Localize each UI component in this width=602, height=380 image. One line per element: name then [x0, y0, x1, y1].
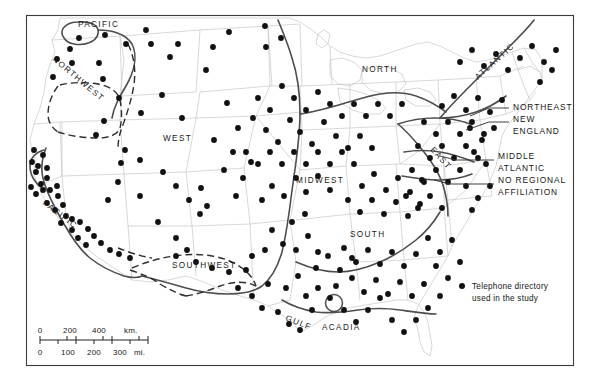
- side-label-middle-atlantic: ATLANTIC: [498, 163, 545, 173]
- sample-dot: [315, 89, 321, 95]
- sample-dot: [427, 155, 433, 161]
- sample-dot: [387, 113, 393, 119]
- sample-dot: [341, 245, 347, 251]
- sample-dot: [184, 247, 190, 253]
- sample-dot: [309, 307, 315, 313]
- sample-dot: [345, 197, 351, 203]
- legend-line-2: used in the study: [472, 294, 539, 303]
- sample-dot: [457, 259, 463, 265]
- region-label-acadia: ACADIA: [322, 323, 361, 332]
- sample-dot: [179, 115, 185, 121]
- region-label-west: WEST: [163, 134, 192, 143]
- sample-dot: [278, 35, 284, 41]
- sample-dot: [475, 95, 481, 101]
- sample-dot: [327, 101, 333, 107]
- sample-dot: [421, 119, 427, 125]
- sample-dot: [291, 95, 297, 101]
- sample-dot: [439, 143, 445, 149]
- sample-dot: [413, 317, 419, 323]
- sample-dot: [240, 175, 246, 181]
- sample-dot: [475, 195, 481, 201]
- sample-dot: [118, 160, 124, 166]
- sample-dot: [302, 211, 308, 217]
- sample-dot: [363, 113, 369, 119]
- sample-dot: [351, 101, 357, 107]
- sample-dot: [275, 139, 281, 145]
- side-label-no-regional-affiliation: NO REGIONAL: [498, 175, 566, 185]
- sample-dot: [107, 247, 113, 253]
- sample-dot: [101, 118, 107, 124]
- scale-km-unit: km.: [124, 326, 138, 335]
- sample-dot: [33, 169, 39, 175]
- sample-dot: [439, 103, 445, 109]
- sample-dot: [269, 227, 275, 233]
- sample-dot: [529, 43, 535, 49]
- scale-km-label-2: 400: [92, 326, 106, 335]
- region-label-north: NORTH: [362, 65, 398, 74]
- sample-dot: [415, 205, 421, 211]
- sample-dot: [469, 47, 475, 53]
- scale-mi-label-1: 100: [61, 348, 75, 357]
- sample-dot: [421, 281, 427, 287]
- legend-dot-symbol: [459, 283, 465, 289]
- sample-dot: [160, 169, 166, 175]
- sample-dot: [469, 207, 475, 213]
- sample-dot: [425, 235, 431, 241]
- sample-dot: [259, 197, 265, 203]
- sample-dot: [211, 137, 217, 143]
- sample-dot: [249, 293, 255, 299]
- sample-dot: [369, 145, 375, 151]
- sample-dot: [67, 46, 73, 52]
- sample-dot: [333, 133, 339, 139]
- sample-dot: [309, 141, 315, 147]
- sample-dot: [365, 247, 371, 253]
- sample-dot: [44, 165, 50, 171]
- sample-dot: [491, 125, 497, 131]
- sample-dot: [339, 113, 345, 119]
- sample-dot: [479, 137, 485, 143]
- sample-dot: [267, 149, 273, 155]
- sample-dot: [76, 35, 82, 41]
- sample-dot: [38, 181, 44, 187]
- sample-dot: [481, 131, 487, 137]
- sample-dot: [445, 119, 451, 125]
- sample-dot: [249, 253, 255, 259]
- sample-dot: [463, 143, 469, 149]
- sample-dot: [325, 253, 331, 259]
- sample-dot: [401, 263, 407, 269]
- sample-dot: [369, 197, 375, 203]
- sample-dot: [305, 233, 311, 239]
- sample-dot: [233, 193, 239, 199]
- sample-dot: [235, 285, 241, 291]
- sample-dot: [203, 67, 209, 73]
- side-label-northeast: NORTHEAST: [513, 102, 573, 112]
- sample-dot: [295, 273, 301, 279]
- sample-dot: [255, 161, 261, 167]
- sample-dot: [351, 161, 357, 167]
- sample-dot: [315, 285, 321, 291]
- sample-dot: [303, 107, 309, 113]
- sample-dot: [401, 329, 407, 335]
- sample-dot: [433, 167, 439, 173]
- sample-dot: [437, 293, 443, 299]
- sample-dot: [297, 129, 303, 135]
- sample-dot: [148, 41, 154, 47]
- sample-dot: [433, 131, 439, 137]
- sample-dot: [60, 202, 66, 208]
- sample-dot: [93, 132, 99, 138]
- sample-dot: [243, 149, 249, 155]
- sample-dot: [155, 219, 161, 225]
- sample-dot: [265, 281, 271, 287]
- sample-dot: [373, 277, 379, 283]
- sample-dot: [35, 163, 41, 169]
- sample-dot: [425, 305, 431, 311]
- scale-mi-label-2: 200: [87, 348, 101, 357]
- sample-dot: [357, 209, 363, 215]
- scale-km-label-1: 200: [63, 326, 77, 335]
- sample-dot: [259, 305, 265, 311]
- side-label-no-regional-affiliation: AFFILIATION: [498, 187, 558, 197]
- sample-dot: [100, 76, 106, 82]
- sample-dot: [457, 167, 463, 173]
- sample-dot: [40, 152, 46, 158]
- scale-km-label-0: 0: [38, 326, 43, 335]
